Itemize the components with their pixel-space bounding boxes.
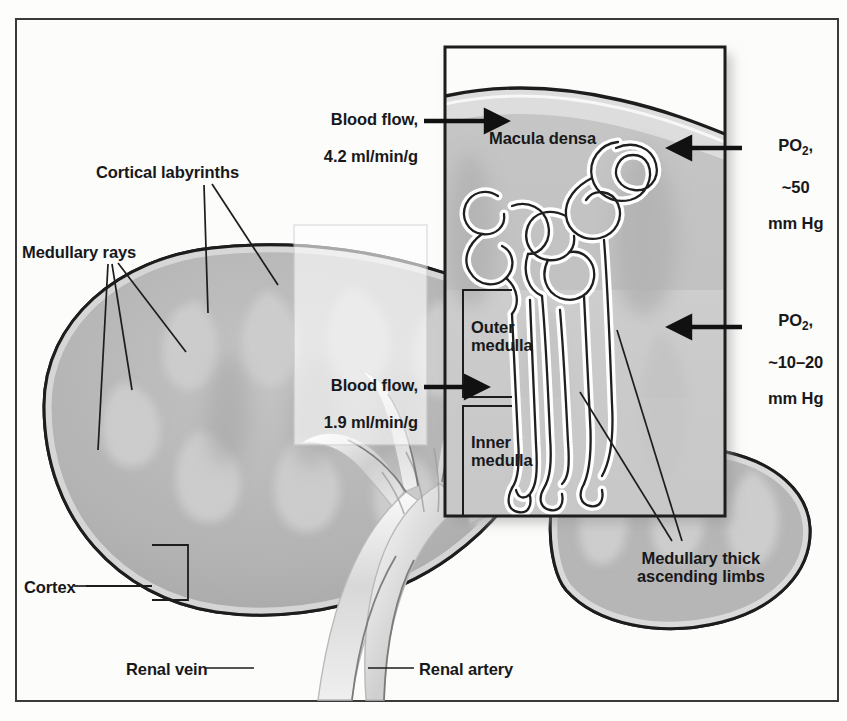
label-blood-flow-cortex: Blood flow, 4.2 ml/min/g (294, 92, 418, 184)
label-outer-medulla: Outer medulla (471, 318, 533, 355)
po2-medulla-value: ~10–20 (768, 353, 823, 371)
label-medullary-thick-ascending-limbs: Medullary thick ascending limbs (637, 549, 765, 586)
blood-flow-cortex-line1: Blood flow, (331, 110, 418, 128)
blood-flow-medulla-line2: 1.9 ml/min/g (324, 413, 418, 431)
label-renal-artery: Renal artery (419, 660, 513, 678)
label-medullary-rays: Medullary rays (22, 243, 136, 261)
label-cortical-labyrinths: Cortical labyrinths (96, 163, 239, 181)
label-po2-medulla: PO2, ~10–20 mm Hg (750, 293, 823, 426)
po2-cortex-symbol: PO (778, 136, 802, 154)
kidney-diagram-artwork (0, 0, 847, 721)
po2-medulla-subscript: 2 (802, 320, 809, 334)
po2-cortex-unit: mm Hg (768, 214, 823, 232)
label-renal-vein: Renal vein (126, 660, 208, 678)
label-blood-flow-medulla: Blood flow, 1.9 ml/min/g (296, 358, 418, 450)
label-po2-cortex: PO2, ~50 mm Hg (750, 118, 823, 251)
blood-flow-medulla-line1: Blood flow, (331, 376, 418, 394)
kidney-blood-flow-figure: Cortical labyrinths Medullary rays Corte… (0, 0, 847, 721)
po2-medulla-unit: mm Hg (768, 389, 823, 407)
label-macula-densa: Macula densa (489, 129, 596, 147)
po2-medulla-symbol: PO (778, 311, 802, 329)
po2-cortex-value: ~50 (782, 178, 810, 196)
po2-cortex-subscript: 2 (802, 145, 809, 159)
label-inner-medulla: Inner medulla (471, 433, 533, 470)
po2-medulla-comma: , (809, 311, 813, 329)
blood-flow-cortex-line2: 4.2 ml/min/g (324, 147, 418, 165)
po2-cortex-comma: , (809, 136, 813, 154)
label-cortex: Cortex (24, 578, 76, 596)
